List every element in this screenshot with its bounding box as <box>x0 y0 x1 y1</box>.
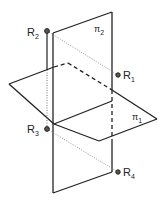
point-R2 <box>45 29 50 34</box>
plane-pi2 <box>53 12 112 193</box>
label-R3: R3 <box>27 123 39 137</box>
planes-diagram: R2 R1 R3 R4 π2 π1 <box>0 0 165 202</box>
label-pi1: π1 <box>132 112 142 124</box>
point-R1 <box>116 73 120 77</box>
label-R2: R2 <box>27 26 39 40</box>
point-R4 <box>116 170 120 174</box>
points <box>45 29 121 175</box>
label-pi2: π2 <box>94 24 104 36</box>
projection-lines <box>47 31 118 172</box>
label-R1: R1 <box>123 69 135 83</box>
label-R4: R4 <box>123 166 135 180</box>
point-R3 <box>45 127 50 132</box>
